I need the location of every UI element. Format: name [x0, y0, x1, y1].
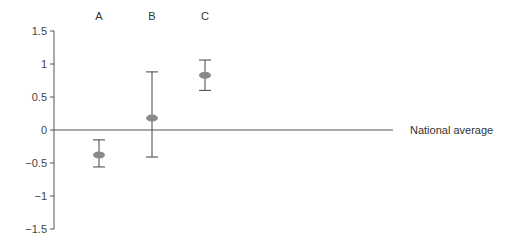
y-tick-label: 1 — [41, 58, 47, 70]
point-marker — [146, 115, 158, 122]
error-bar-chart: 1.510.50−0.5−1−1.5 National average ABC — [0, 0, 512, 245]
category-label-c: C — [201, 10, 209, 22]
national-average-label: National average — [410, 124, 493, 136]
y-tick-label: −0.5 — [25, 157, 47, 169]
category-label-a: A — [95, 10, 103, 22]
point-marker — [199, 72, 211, 79]
y-tick-label: 0 — [41, 124, 47, 136]
data-points — [93, 60, 211, 167]
point-marker — [93, 152, 105, 159]
error-bar-b — [146, 72, 158, 157]
y-axis: 1.510.50−0.5−1−1.5 — [25, 25, 54, 235]
error-bar-a — [93, 140, 105, 167]
y-tick-label: −1.5 — [25, 223, 47, 235]
category-labels: ABC — [95, 10, 209, 22]
national-average-line: National average — [54, 124, 493, 136]
y-tick-label: 1.5 — [32, 25, 47, 37]
error-bar-c — [199, 60, 211, 90]
y-tick-label: 0.5 — [32, 91, 47, 103]
category-label-b: B — [148, 10, 155, 22]
y-tick-label: −1 — [34, 190, 47, 202]
